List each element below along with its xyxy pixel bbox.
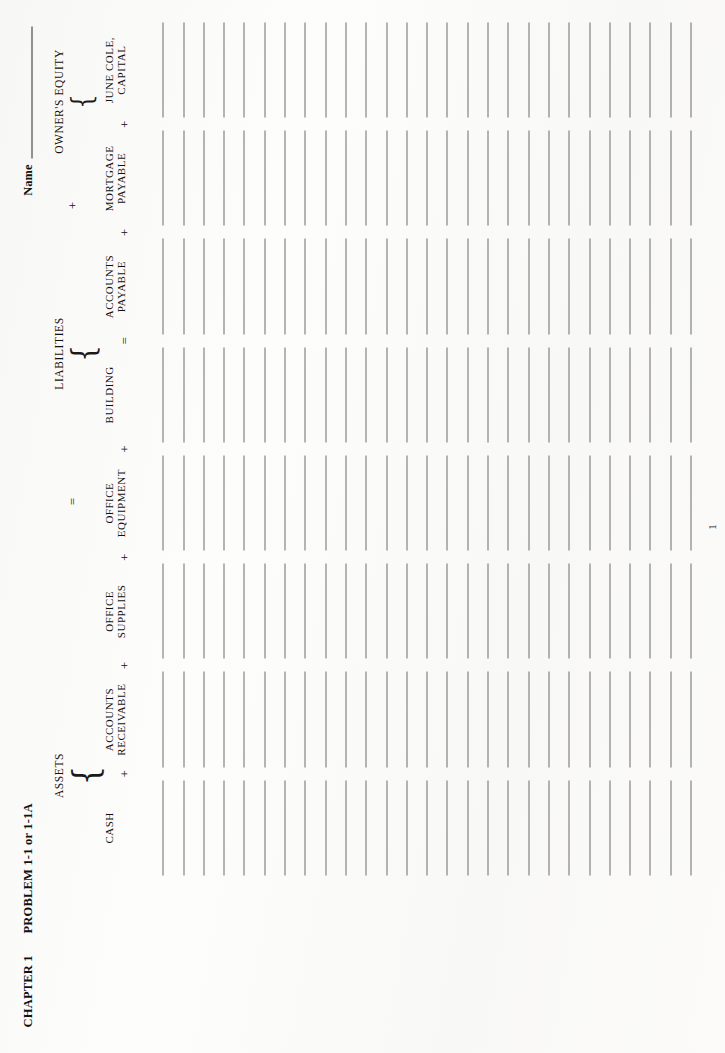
ledger-rule-line[interactable] bbox=[346, 130, 366, 225]
ledger-rule-line[interactable] bbox=[488, 672, 508, 767]
ledger-rule-line[interactable] bbox=[549, 672, 569, 767]
ledger-rule-line[interactable] bbox=[529, 239, 549, 334]
ledger-rule-line[interactable] bbox=[447, 672, 467, 767]
ledger-rule-line[interactable] bbox=[468, 239, 488, 334]
ledger-rule-line[interactable] bbox=[488, 563, 508, 658]
ledger-rule-line[interactable] bbox=[610, 780, 630, 875]
ledger-rule-line[interactable] bbox=[468, 780, 488, 875]
ledger-rule-line[interactable] bbox=[184, 672, 204, 767]
ledger-rule-line[interactable] bbox=[427, 239, 447, 334]
ledger-rule-line[interactable] bbox=[265, 672, 285, 767]
ledger-rule-line[interactable] bbox=[184, 780, 204, 875]
ledger-rule-line[interactable] bbox=[508, 672, 528, 767]
ledger-rule-line[interactable] bbox=[427, 672, 447, 767]
ledger-rule-line[interactable] bbox=[671, 130, 691, 225]
ledger-rule-line[interactable] bbox=[305, 563, 325, 658]
ledger-rule-line[interactable] bbox=[265, 455, 285, 550]
ledger-rule-line[interactable] bbox=[265, 780, 285, 875]
ledger-rule-line[interactable] bbox=[569, 347, 589, 442]
ledger-rule-line[interactable] bbox=[244, 672, 264, 767]
ledger-rule-line[interactable] bbox=[305, 455, 325, 550]
ledger-rule-line[interactable] bbox=[610, 455, 630, 550]
ledger-rule-line[interactable] bbox=[244, 455, 264, 550]
ledger-rule-line[interactable] bbox=[610, 347, 630, 442]
ledger-rule-line[interactable] bbox=[427, 455, 447, 550]
ledger-rule-line[interactable] bbox=[346, 22, 366, 117]
ledger-rule-line[interactable] bbox=[366, 672, 386, 767]
ledger-rule-line[interactable] bbox=[671, 455, 691, 550]
ledger-rule-line[interactable] bbox=[447, 780, 467, 875]
ledger-rule-line[interactable] bbox=[468, 672, 488, 767]
ledger-rule-line[interactable] bbox=[671, 22, 691, 117]
ledger-rule-line[interactable] bbox=[143, 239, 163, 334]
ledger-rule-line[interactable] bbox=[590, 239, 610, 334]
ledger-rule-line[interactable] bbox=[387, 672, 407, 767]
ledger-rule-line[interactable] bbox=[549, 563, 569, 658]
ledger-rule-line[interactable] bbox=[387, 239, 407, 334]
ledger-rule-line[interactable] bbox=[326, 347, 346, 442]
ledger-rule-line[interactable] bbox=[630, 672, 650, 767]
ledger-rule-line[interactable] bbox=[407, 780, 427, 875]
ledger-rule-line[interactable] bbox=[184, 22, 204, 117]
ledger-rule-line[interactable] bbox=[163, 672, 183, 767]
ledger-rule-line[interactable] bbox=[671, 239, 691, 334]
ledger-rule-line[interactable] bbox=[630, 455, 650, 550]
ledger-column-accounts-receivable[interactable] bbox=[143, 672, 691, 767]
ledger-rule-line[interactable] bbox=[346, 672, 366, 767]
ledger-rule-line[interactable] bbox=[508, 563, 528, 658]
ledger-rule-line[interactable] bbox=[407, 239, 427, 334]
ledger-rule-line[interactable] bbox=[650, 22, 670, 117]
ledger-rule-line[interactable] bbox=[326, 130, 346, 225]
ledger-rule-line[interactable] bbox=[265, 347, 285, 442]
ledger-rule-line[interactable] bbox=[285, 455, 305, 550]
ledger-rule-line[interactable] bbox=[468, 130, 488, 225]
ledger-rule-line[interactable] bbox=[305, 22, 325, 117]
ledger-rule-line[interactable] bbox=[630, 130, 650, 225]
ledger-rule-line[interactable] bbox=[468, 455, 488, 550]
ledger-rule-line[interactable] bbox=[285, 563, 305, 658]
ledger-rule-line[interactable] bbox=[184, 239, 204, 334]
ledger-column-mortgage-payable[interactable] bbox=[143, 130, 691, 225]
ledger-rule-line[interactable] bbox=[265, 563, 285, 658]
ledger-rule-line[interactable] bbox=[590, 22, 610, 117]
ledger-rule-line[interactable] bbox=[549, 455, 569, 550]
ledger-rule-line[interactable] bbox=[163, 130, 183, 225]
ledger-rule-line[interactable] bbox=[143, 563, 163, 658]
ledger-rule-line[interactable] bbox=[407, 455, 427, 550]
ledger-rule-line[interactable] bbox=[529, 780, 549, 875]
ledger-rule-line[interactable] bbox=[366, 563, 386, 658]
ledger-rule-line[interactable] bbox=[590, 455, 610, 550]
ledger-rule-line[interactable] bbox=[569, 563, 589, 658]
ledger-rule-line[interactable] bbox=[387, 780, 407, 875]
ledger-rule-line[interactable] bbox=[569, 22, 589, 117]
ledger-rule-line[interactable] bbox=[650, 672, 670, 767]
ledger-rule-line[interactable] bbox=[204, 780, 224, 875]
ledger-rule-line[interactable] bbox=[569, 239, 589, 334]
ledger-rule-line[interactable] bbox=[508, 239, 528, 334]
ledger-rule-line[interactable] bbox=[224, 672, 244, 767]
ledger-rule-line[interactable] bbox=[549, 130, 569, 225]
ledger-rule-line[interactable] bbox=[305, 130, 325, 225]
ledger-rule-line[interactable] bbox=[650, 563, 670, 658]
ledger-rule-line[interactable] bbox=[305, 672, 325, 767]
ledger-rule-line[interactable] bbox=[447, 563, 467, 658]
ledger-rule-line[interactable] bbox=[488, 22, 508, 117]
ledger-rule-line[interactable] bbox=[204, 22, 224, 117]
ledger-rule-line[interactable] bbox=[447, 130, 467, 225]
ledger-rule-line[interactable] bbox=[143, 455, 163, 550]
ledger-rule-line[interactable] bbox=[610, 672, 630, 767]
ledger-rule-line[interactable] bbox=[184, 563, 204, 658]
ledger-rule-line[interactable] bbox=[630, 347, 650, 442]
ledger-rule-line[interactable] bbox=[244, 563, 264, 658]
ledger-rule-line[interactable] bbox=[590, 130, 610, 225]
ledger-rule-line[interactable] bbox=[529, 130, 549, 225]
ledger-rule-line[interactable] bbox=[163, 347, 183, 442]
ledger-rule-line[interactable] bbox=[366, 22, 386, 117]
ledger-rule-line[interactable] bbox=[285, 347, 305, 442]
ledger-rule-line[interactable] bbox=[204, 455, 224, 550]
ledger-rule-line[interactable] bbox=[326, 455, 346, 550]
name-write-in-rule[interactable] bbox=[31, 26, 32, 158]
ledger-rule-line[interactable] bbox=[590, 347, 610, 442]
ledger-rule-line[interactable] bbox=[204, 563, 224, 658]
ledger-rule-line[interactable] bbox=[387, 563, 407, 658]
